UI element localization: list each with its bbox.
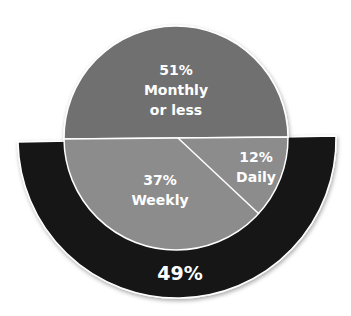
weekly-name: Weekly — [120, 190, 200, 210]
label-daily: 12% Daily — [226, 147, 286, 187]
daily-name: Daily — [226, 167, 286, 187]
monthly-pct: 51% — [126, 60, 226, 80]
weekly-pct: 37% — [120, 170, 200, 190]
daily-pct: 12% — [226, 147, 286, 167]
label-monthly: 51% Monthly or less — [126, 60, 226, 120]
monthly-name: Monthly — [126, 80, 226, 100]
label-band: 49% — [140, 263, 220, 283]
label-weekly: 37% Weekly — [120, 170, 200, 210]
monthly-name-2: or less — [126, 100, 226, 120]
